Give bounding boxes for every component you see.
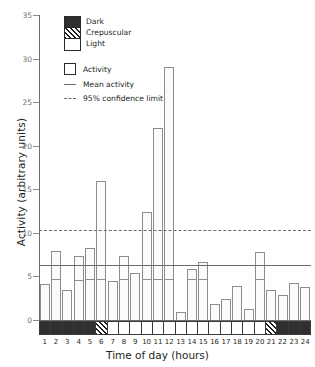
x-tick-label: 14 (186, 336, 197, 348)
cycle-cell-light (119, 322, 130, 334)
bar (244, 309, 254, 320)
bar (40, 284, 50, 320)
x-tick-label: 24 (300, 336, 311, 348)
y-tick-label: 5 (8, 272, 32, 281)
x-tick-label: 20 (254, 336, 265, 348)
confidence-limit-line (39, 230, 311, 231)
cycle-cell-light (108, 322, 119, 334)
x-tick-label: 17 (220, 336, 231, 348)
bar-segment-divider (74, 280, 84, 281)
bar-segment-divider (164, 279, 174, 280)
y-tick-label: 15 (8, 185, 32, 194)
y-tick-label: 0 (8, 316, 32, 325)
bar (130, 273, 140, 320)
x-tick-label: 8 (118, 336, 129, 348)
solid-line-swatch (64, 84, 76, 85)
bar (108, 281, 118, 320)
bar (210, 304, 220, 320)
bar-segment-divider (96, 279, 106, 280)
mean-activity-line (39, 265, 311, 266)
cycle-cell-light (187, 322, 198, 334)
activity-bar-chart: Activity (arbitrary units) 0510152025303… (0, 0, 315, 367)
bar-swatch (64, 63, 76, 75)
x-tick-label: 7 (107, 336, 118, 348)
bar (62, 290, 72, 321)
y-tick-label: 20 (8, 142, 32, 151)
crepuscular-swatch (65, 28, 80, 39)
bar (278, 295, 288, 320)
cycle-cell-dark (51, 322, 62, 334)
light-swatch (65, 39, 80, 50)
cycle-cell-light (153, 322, 164, 334)
light-cycle-band (39, 321, 311, 335)
bar (176, 312, 186, 320)
x-tick-label: 23 (288, 336, 299, 348)
bar-segment-divider (142, 279, 152, 280)
bar (51, 251, 61, 320)
bar (85, 248, 95, 320)
cycle-cell-light (130, 322, 141, 334)
y-axis-title: Activity (arbitrary units) (15, 82, 27, 282)
legend-item-mean-activity: Mean activity (64, 80, 134, 89)
bar (300, 287, 310, 320)
bar-segment-divider (51, 279, 61, 280)
bar-segment-divider (85, 279, 95, 280)
legend-label-mean-activity: Mean activity (83, 80, 134, 89)
x-tick-label: 13 (175, 336, 186, 348)
cycle-cell-light (198, 322, 209, 334)
y-tick-label: 25 (8, 98, 32, 107)
bar (198, 262, 208, 320)
legend-label-crepuscular: Crepuscular (86, 27, 131, 38)
legend-label-light: Light (86, 38, 105, 49)
cycle-cell-light (142, 322, 153, 334)
cycle-cell-light (176, 322, 187, 334)
y-tick-label: 35 (8, 11, 32, 20)
bar-segment-divider (255, 279, 265, 280)
y-tick-label: 30 (8, 55, 32, 64)
bar-segment-divider (153, 279, 163, 280)
x-tick-label: 11 (152, 336, 163, 348)
cycle-cell-light (164, 322, 175, 334)
x-axis-title: Time of day (hours) (0, 349, 315, 361)
x-tick-label: 15 (198, 336, 209, 348)
cycle-cell-crepuscular (266, 322, 277, 334)
cycle-cell-light (255, 322, 266, 334)
x-tick-label: 10 (141, 336, 152, 348)
x-tick-label: 2 (50, 336, 61, 348)
bar (255, 252, 265, 320)
x-tick-label: 21 (266, 336, 277, 348)
dashed-line-swatch (64, 98, 76, 99)
x-tick-label: 22 (277, 336, 288, 348)
cycle-cell-dark (40, 322, 51, 334)
legend-label-dark: Dark (86, 16, 104, 27)
cycle-cell-dark (85, 322, 96, 334)
y-tick-label: 10 (8, 229, 32, 238)
cycle-cell-light (232, 322, 243, 334)
x-tick-label: 18 (232, 336, 243, 348)
cycle-cell-dark (300, 322, 310, 334)
legend-item-activity: Activity (64, 63, 111, 75)
bar (266, 290, 276, 320)
cycle-cell-dark (289, 322, 300, 334)
x-tick-label: 1 (39, 336, 50, 348)
bar (232, 286, 242, 320)
bar-segment-divider (119, 279, 129, 280)
plot-area (39, 15, 311, 320)
dark-swatch (65, 17, 80, 28)
bar-segment-divider (198, 279, 208, 280)
x-tick-label: 6 (96, 336, 107, 348)
x-tick-label: 3 (62, 336, 73, 348)
bar (221, 299, 231, 320)
bar (187, 269, 197, 320)
x-tick-label: 4 (73, 336, 84, 348)
cycle-cell-crepuscular (96, 322, 107, 334)
x-axis-tick-labels: 123456789101112131415161718192021222324 (39, 336, 311, 348)
bar (153, 128, 163, 320)
cycle-cell-light (243, 322, 254, 334)
legend-item-confidence-limit: 95% confidence limit (64, 94, 163, 103)
bar-segment-divider (187, 279, 197, 280)
legend-label-confidence-limit: 95% confidence limit (83, 94, 163, 103)
x-tick-label: 12 (164, 336, 175, 348)
bar (164, 67, 174, 320)
bar (289, 283, 299, 320)
